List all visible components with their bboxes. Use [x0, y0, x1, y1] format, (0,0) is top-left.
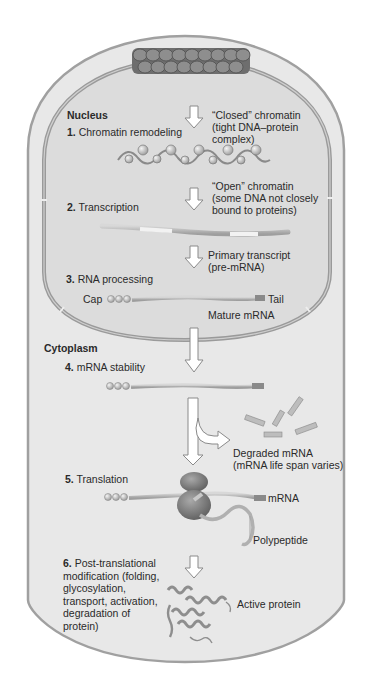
degraded-mrna-annotation: Degraded mRNA (mRNA life span varies) — [233, 447, 343, 471]
active-protein-label: Active protein — [237, 598, 301, 610]
step-text: protein) — [63, 620, 159, 633]
primary-transcript-annotation: Primary transcript (pre-mRNA) — [208, 249, 290, 273]
step-text: modification (folding, — [63, 570, 159, 583]
tail-label: Tail — [268, 293, 284, 305]
annotation-line: Degraded mRNA — [233, 447, 343, 459]
step-number: 2. — [67, 201, 76, 213]
annotation-line: complex) — [212, 133, 301, 145]
annotation-line: (pre-mRNA) — [208, 261, 290, 273]
step-number: 4. — [65, 361, 74, 373]
mature-mrna-label: Mature mRNA — [208, 309, 275, 321]
step-text: Chromatin remodeling — [79, 126, 182, 138]
nucleus-label: Nucleus — [67, 109, 108, 121]
step-number: 6. — [63, 557, 72, 569]
diagram-graphics — [0, 0, 371, 673]
step-text: transport, activation, — [63, 595, 159, 608]
step-number: 1. — [67, 126, 76, 138]
step-3-label: 3. RNA processing — [66, 273, 153, 285]
step-4-label: 4. mRNA stability — [65, 361, 145, 373]
step-number: 5. — [65, 473, 74, 485]
step-text: mRNA stability — [77, 361, 145, 373]
step-text: Post-translational — [75, 557, 156, 569]
closed-chromatin-annotation: “Closed” chromatin (tight DNA–protein co… — [212, 109, 301, 145]
step-2-label: 2. Transcription — [67, 201, 139, 213]
mrna-label: mRNA — [268, 492, 299, 504]
annotation-line: (some DNA not closely — [212, 192, 318, 204]
annotation-line: “Closed” chromatin — [212, 109, 301, 121]
step-text: glycosylation, — [63, 582, 159, 595]
step-6-label: 6. Post-translational modification (fold… — [63, 557, 159, 632]
step-1-label: 1. Chromatin remodeling — [67, 126, 182, 138]
step-number: 3. — [66, 273, 75, 285]
step-text: RNA processing — [78, 273, 153, 285]
step-text: degradation of — [63, 607, 159, 620]
annotation-line: (mRNA life span varies) — [233, 459, 343, 471]
annotation-line: Primary transcript — [208, 249, 290, 261]
cap-label: Cap — [83, 293, 102, 305]
annotation-line: “Open” chromatin — [212, 180, 318, 192]
annotation-line: (tight DNA–protein — [212, 121, 301, 133]
open-chromatin-annotation: “Open” chromatin (some DNA not closely b… — [212, 180, 318, 216]
cytoplasm-label: Cytoplasm — [44, 342, 98, 354]
step-5-label: 5. Translation — [65, 473, 128, 485]
closed-chromatin-graphic — [132, 48, 250, 74]
step-text: Translation — [77, 473, 129, 485]
polypeptide-label: Polypeptide — [253, 534, 308, 546]
step-text: Transcription — [79, 201, 139, 213]
gene-expression-diagram: Nucleus 1. Chromatin remodeling “Closed”… — [0, 0, 371, 673]
annotation-line: bound to proteins) — [212, 204, 318, 216]
